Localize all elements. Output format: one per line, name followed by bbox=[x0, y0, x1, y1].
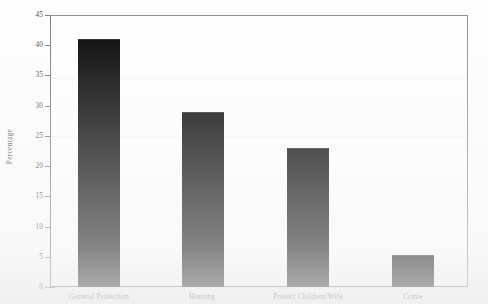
x-tick-label-hunting: Hunting bbox=[152, 292, 252, 301]
x-tick-label-general-protection: General Protection bbox=[34, 292, 164, 301]
x-tick-label-crime: Crime bbox=[363, 292, 463, 301]
bar-chart-figure: Percentage 45 40 35 30 25 20 15 10 5 0 G… bbox=[0, 0, 488, 304]
x-tick-label-protect-children: Protect Children/Wife bbox=[241, 292, 375, 301]
bar-hunting bbox=[182, 112, 224, 287]
y-tick-label-30: 30 bbox=[22, 102, 43, 110]
bar-protect-children bbox=[287, 148, 329, 287]
y-tick-label-20: 20 bbox=[22, 162, 43, 170]
y-tick-label-45: 45 bbox=[22, 11, 43, 19]
bar-crime bbox=[392, 255, 434, 287]
y-tick-label-10: 10 bbox=[22, 223, 43, 231]
y-tick-label-15: 15 bbox=[22, 192, 43, 200]
y-axis-title: Percentage bbox=[5, 119, 14, 175]
bar-general-protection bbox=[78, 39, 120, 287]
y-tick-mark-0 bbox=[45, 287, 55, 288]
y-tick-label-35: 35 bbox=[22, 71, 43, 79]
y-tick-label-5: 5 bbox=[22, 253, 43, 261]
y-tick-label-25: 25 bbox=[22, 132, 43, 140]
y-tick-label-40: 40 bbox=[22, 41, 43, 49]
y-tick-label-0: 0 bbox=[22, 283, 43, 291]
